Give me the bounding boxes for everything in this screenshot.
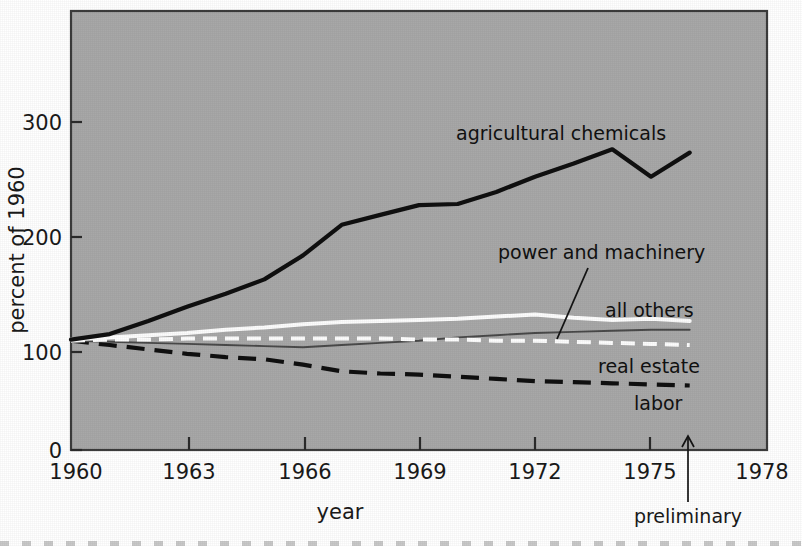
x-tick-label-1966: 1966 xyxy=(278,460,331,484)
series-label-power-and-machinery: power and machinery xyxy=(498,241,705,263)
page-edge-sliver xyxy=(0,541,802,546)
y-tick-label-300: 300 xyxy=(22,111,62,135)
series-label-real-estate: real estate xyxy=(598,355,700,377)
series-label-all-others: all others xyxy=(605,299,694,321)
series-label-labor: labor xyxy=(634,392,683,414)
y-axis-title: percent of 1960 xyxy=(5,166,29,333)
x-tick-label-1969: 1969 xyxy=(393,460,446,484)
x-tick-label-1963: 1963 xyxy=(162,460,215,484)
y-tick-label-100: 100 xyxy=(22,341,62,365)
x-tick-label-1972: 1972 xyxy=(508,460,561,484)
x-tick-label-1960: 1960 xyxy=(49,460,102,484)
line-chart: 0 100 200 300 percent of 1960 1960 1963 … xyxy=(0,0,802,546)
x-tick-label-1978: 1978 xyxy=(735,460,788,484)
chart-figure: 0 100 200 300 percent of 1960 1960 1963 … xyxy=(0,0,802,546)
preliminary-label: preliminary xyxy=(634,505,742,527)
x-tick-label-1975: 1975 xyxy=(623,460,676,484)
x-axis-title: year xyxy=(317,500,364,524)
series-label-agricultural-chemicals: agricultural chemicals xyxy=(456,122,666,144)
